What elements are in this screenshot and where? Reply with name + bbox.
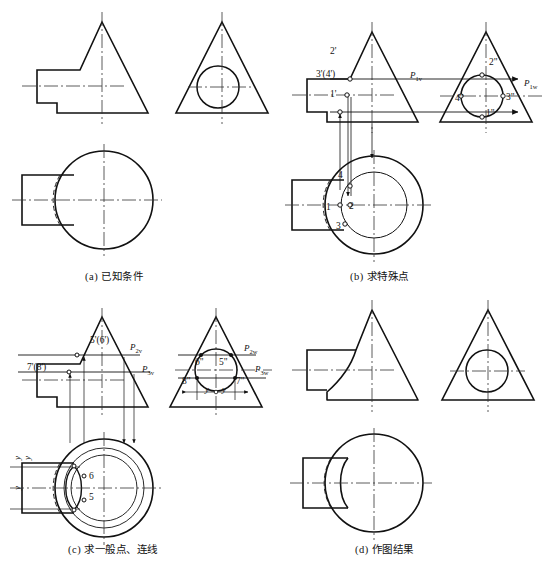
point-4: [348, 184, 352, 188]
point-1dprime: [480, 115, 484, 119]
caption-panel-a: (a) 已知条件: [85, 268, 143, 283]
label-1doubleprime: 1": [486, 108, 495, 118]
caption-panel-c: (c) 求一般点、连线: [68, 541, 158, 556]
label-7doubleprime: 7": [236, 376, 245, 386]
label-4doubleprime: 4": [455, 93, 464, 103]
label-1prime: 1': [330, 89, 336, 99]
panel-d-side-view: [442, 300, 534, 412]
label-2doubleprime: 2": [489, 57, 498, 67]
front-outline: [37, 22, 148, 113]
point-2prime: [348, 77, 352, 81]
trace-label-p2w: P2w: [244, 343, 257, 355]
point-5dprime: [229, 353, 233, 357]
engineering-drawing-figure: [0, 0, 555, 572]
panel-a-front-view: [22, 12, 148, 124]
panel-d-front-view: [292, 300, 418, 412]
panel-c-plan-view: [10, 432, 162, 545]
point-56prime: [75, 353, 79, 357]
label-5prime-6prime: 5'(6'): [90, 335, 109, 345]
label-3prime-4prime: 3'(4'): [316, 69, 335, 79]
trace-label-p3v: P3v: [142, 364, 154, 376]
dim-y-center: [214, 390, 218, 394]
dim-label-y-side-right: y: [222, 384, 226, 394]
caption-panel-b: (b) 求特殊点: [350, 268, 409, 283]
label-point-5: 5: [89, 492, 94, 502]
point-1prime: [338, 110, 342, 114]
panel-b-front-view: [292, 22, 518, 196]
trace-label-p1v: P1v: [410, 70, 422, 82]
point-2dprime: [480, 73, 484, 77]
label-point-6: 6: [89, 471, 94, 481]
label-point-4: 4: [338, 170, 343, 180]
panel-b-plan-view: [285, 150, 432, 262]
point-6: [82, 474, 86, 478]
dim-label-y-plan-3: y: [12, 486, 22, 490]
point-78prime: [67, 370, 71, 374]
front-outline: [37, 317, 148, 407]
panel-b: [285, 22, 545, 262]
label-6doubleprime: 6": [195, 357, 204, 367]
front-outline: [327, 310, 418, 400]
label-point-2: 2: [349, 201, 354, 211]
panel-d: [290, 300, 534, 540]
label-5doubleprime: 5": [219, 357, 228, 367]
point-3dprime: [501, 94, 505, 98]
point-1: [338, 203, 342, 207]
caption-panel-d: (d) 作图结果: [355, 541, 414, 556]
label-point-3: 3: [336, 221, 341, 231]
point-3: [343, 222, 347, 226]
trace-label-p1w: P1w: [524, 78, 537, 90]
label-3doubleprime: 3": [506, 92, 515, 102]
label-2prime: 2': [330, 46, 336, 56]
point-8dprime: [195, 376, 199, 380]
panel-d-plan-view: [290, 428, 432, 540]
trace-label-p2v: P2v: [130, 342, 142, 354]
label-7prime-8prime: 7'(8'): [27, 362, 46, 372]
dim-label-y-side-left: y: [205, 384, 209, 394]
dim-label-y-plan-1: y: [12, 456, 22, 460]
panel-a-side-view: [176, 12, 268, 124]
panel-c-front-view: [18, 308, 150, 443]
front-fillpath: [307, 310, 418, 400]
label-point-1: 1: [326, 202, 331, 212]
trace-label-p3w: P3w: [255, 364, 268, 376]
point-5: [72, 464, 76, 468]
panel-a-plan-view: [12, 144, 162, 256]
label-8doubleprime: 8": [182, 376, 191, 386]
dim-label-y-plan-2: y: [22, 456, 32, 460]
point-7: [72, 508, 76, 512]
point-8: [82, 498, 86, 502]
point-34prime: [345, 93, 349, 97]
panel-a: [12, 12, 268, 256]
